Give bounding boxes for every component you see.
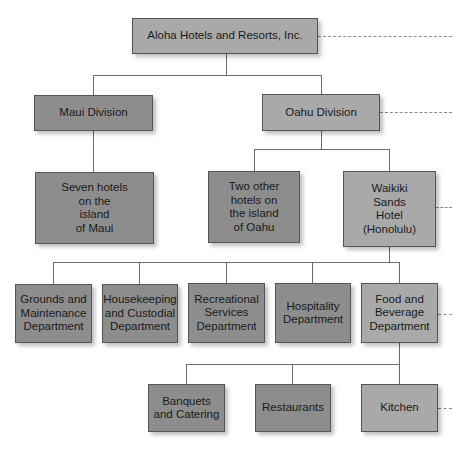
connector (139, 262, 140, 285)
connector (254, 149, 390, 150)
org-box-food-beverage: Food and Beverage Department (361, 283, 438, 343)
connector (399, 262, 400, 284)
connector (93, 75, 322, 76)
org-box-hospitality: Hospitality Department (275, 283, 351, 343)
connector (53, 262, 54, 285)
dashed-leader (318, 36, 452, 37)
dashed-leader (380, 112, 452, 113)
connector (389, 149, 390, 171)
org-box-banquets-catering: Banquets and Catering (148, 384, 225, 432)
org-box-kitchen: Kitchen (361, 384, 438, 432)
connector (186, 364, 400, 365)
org-box-aloha-hotels: Aloha Hotels and Resorts, Inc. (132, 18, 318, 54)
org-box-restaurants: Restaurants (255, 384, 331, 432)
connector (93, 131, 94, 173)
org-box-waikiki-sands: Waikiki Sands Hotel (Honolulu) (343, 171, 436, 247)
connector (389, 247, 390, 263)
org-box-oahu-division: Oahu Division (262, 94, 380, 131)
connector (312, 262, 313, 284)
org-box-maui-hotels: Seven hotels on the island of Maui (35, 172, 154, 244)
connector (254, 149, 255, 172)
connector (321, 75, 322, 95)
connector (292, 364, 293, 385)
connector (321, 131, 322, 150)
org-box-maui-division: Maui Division (34, 95, 153, 131)
org-box-housekeeping: Housekeeping and Custodial Department (102, 284, 178, 343)
dashed-leader (436, 207, 452, 208)
connector (93, 75, 94, 96)
org-box-recreational-services: Recreational Services Department (188, 283, 265, 343)
connector (226, 54, 227, 76)
org-box-oahu-other-hotels: Two other hotels on the island of Oahu (208, 171, 300, 243)
connector (186, 364, 187, 385)
connector (226, 262, 227, 284)
dashed-leader (438, 314, 452, 315)
org-box-grounds-maintenance: Grounds and Maintenance Department (15, 284, 92, 343)
dashed-leader (438, 408, 452, 409)
